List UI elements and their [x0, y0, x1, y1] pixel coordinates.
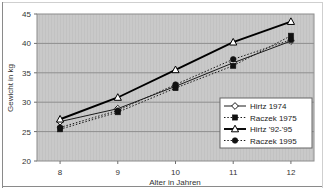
- x-tick-label: 9: [116, 168, 121, 177]
- line-chart: 202530354045 89101112 Gewicht in kg Alte…: [0, 0, 325, 190]
- x-tick-label: 11: [229, 168, 238, 177]
- y-tick-label: 25: [22, 128, 31, 137]
- data-point-marker: [232, 138, 238, 144]
- data-point-marker: [173, 82, 179, 88]
- data-point-marker: [115, 108, 121, 114]
- y-tick-label: 20: [22, 157, 31, 166]
- data-point-marker: [231, 63, 236, 68]
- y-tick-label: 35: [22, 69, 31, 78]
- x-axis-title: Alter in Jahren: [149, 178, 201, 187]
- data-point-marker: [232, 115, 237, 120]
- x-tick-label: 8: [58, 168, 63, 177]
- legend-item-label[interactable]: Raczek 1995: [250, 137, 297, 146]
- x-tick-label: 12: [286, 168, 295, 177]
- data-point-marker: [288, 37, 294, 43]
- y-axis-title: Gewicht in kg: [6, 64, 15, 112]
- legend-item-label[interactable]: Hirtz 1974: [250, 102, 287, 111]
- x-tick-label: 10: [171, 168, 180, 177]
- y-tick-label: 30: [22, 98, 31, 107]
- chart-container: 202530354045 89101112 Gewicht in kg Alte…: [0, 0, 325, 190]
- legend-item-label[interactable]: Raczek 1975: [250, 114, 297, 123]
- legend-item-label[interactable]: Hirtz '92-'95: [250, 125, 293, 134]
- chart-legend[interactable]: Hirtz 1974Raczek 1975Hirtz '92-'95Raczek…: [220, 98, 312, 148]
- data-point-marker: [230, 56, 236, 62]
- y-tick-label: 40: [22, 39, 31, 48]
- x-axis-tick-labels: 89101112: [58, 168, 296, 177]
- y-axis-tick-labels: 202530354045: [22, 10, 31, 166]
- data-point-marker: [57, 125, 63, 131]
- y-tick-label: 45: [22, 10, 31, 19]
